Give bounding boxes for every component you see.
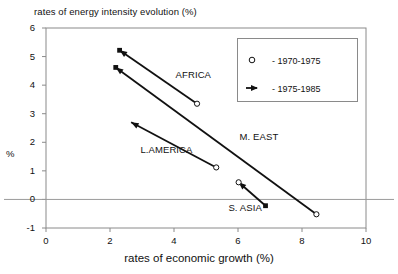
series-label-africa: AFRICA bbox=[176, 69, 211, 80]
y-tick-label: 5 bbox=[13, 51, 35, 62]
x-tick-label: 0 bbox=[33, 235, 59, 246]
series-label-l-america: L.AMERICA bbox=[140, 144, 192, 155]
data-point-open-circle bbox=[314, 212, 319, 217]
data-point-filled-square bbox=[117, 48, 122, 53]
series-label-m-east: M. EAST bbox=[240, 131, 279, 142]
chart-title: rates of energy intensity evolution (%) bbox=[34, 6, 197, 17]
data-point-filled-square bbox=[263, 203, 268, 208]
x-tick-label: 4 bbox=[161, 235, 187, 246]
legend-entry-1970-1975: - 1970-1975 bbox=[272, 56, 321, 66]
y-tick-label: -1 bbox=[13, 222, 35, 233]
chart-container: rates of energy intensity evolution (%) … bbox=[0, 0, 398, 274]
series-arrowhead-2 bbox=[131, 122, 139, 128]
x-axis-label: rates of economic growth (%) bbox=[0, 252, 398, 264]
data-point-open-circle bbox=[194, 101, 199, 106]
x-tick-label: 10 bbox=[353, 235, 379, 246]
data-point-open-circle bbox=[214, 165, 219, 170]
y-tick-label: 0 bbox=[13, 193, 35, 204]
x-tick-label: 2 bbox=[97, 235, 123, 246]
y-tick-label: 4 bbox=[13, 79, 35, 90]
y-tick-label: 2 bbox=[13, 136, 35, 147]
series-label-s-asia: S. ASIA bbox=[228, 202, 261, 213]
y-tick-label: 6 bbox=[13, 22, 35, 33]
y-tick-label: 3 bbox=[13, 108, 35, 119]
data-point-open-circle bbox=[236, 180, 241, 185]
y-axis-label: % bbox=[6, 148, 14, 159]
x-tick-label: 6 bbox=[225, 235, 251, 246]
legend-entry-1975-1985: - 1975-1985 bbox=[272, 84, 321, 94]
y-tick-label: 1 bbox=[13, 165, 35, 176]
data-point-filled-square bbox=[113, 65, 118, 70]
x-tick-label: 8 bbox=[289, 235, 315, 246]
